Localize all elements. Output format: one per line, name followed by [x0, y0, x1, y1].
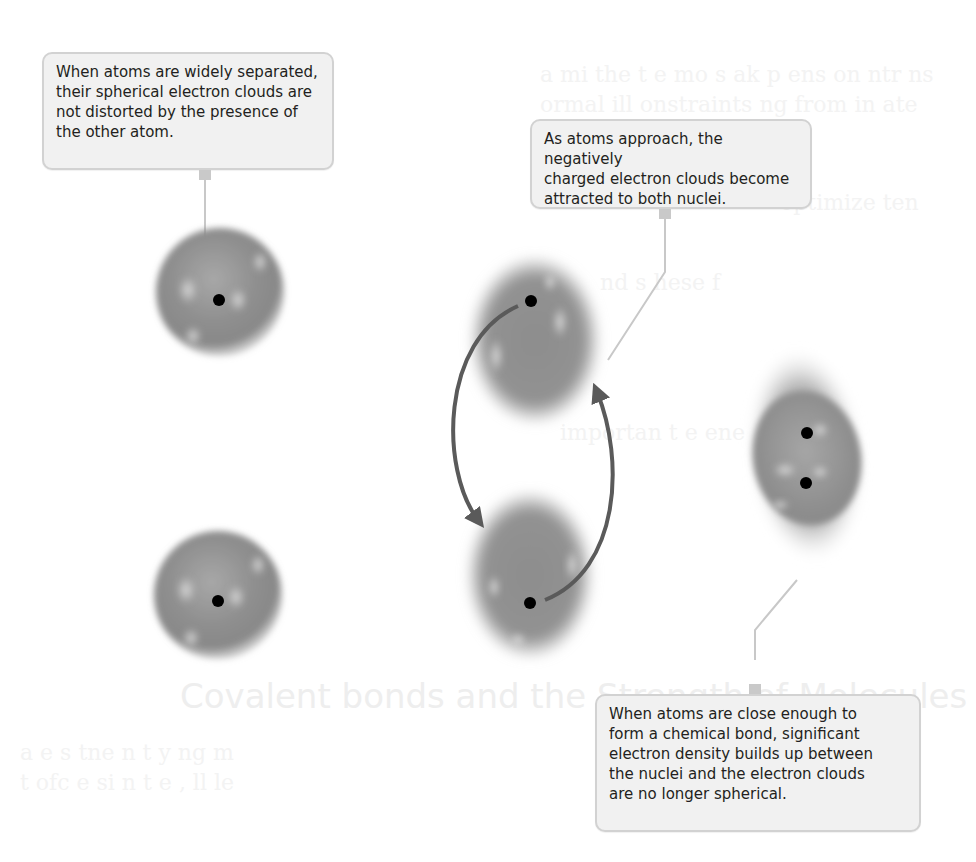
- callout-approaching: As atoms approach, the negatively charge…: [530, 119, 812, 209]
- nucleus: [212, 595, 224, 607]
- callout-line: When atoms are widely separated,: [56, 62, 320, 82]
- callout-line: As atoms approach, the negatively: [544, 129, 798, 169]
- nucleus: [801, 427, 813, 439]
- nucleus: [800, 477, 812, 489]
- nucleus: [213, 294, 225, 306]
- callout-line: form a chemical bond, significant: [609, 724, 907, 744]
- atom-approaching-top: [471, 258, 599, 422]
- callout-line: When atoms are close enough to: [609, 704, 907, 724]
- callout-line: the other atom.: [56, 122, 320, 142]
- callout-line: are no longer spherical.: [609, 784, 907, 804]
- callout-bonded: When atoms are close enough to form a ch…: [595, 694, 921, 832]
- leader-line-bonded: [755, 580, 797, 660]
- nucleus: [524, 597, 536, 609]
- callout-line: not distorted by the presence of: [56, 102, 320, 122]
- callout-connector-tab: [199, 170, 211, 180]
- callout-line: attracted to both nuclei.: [544, 189, 798, 209]
- callout-separated: When atoms are widely separated, their s…: [42, 52, 334, 170]
- molecule-bonded: [739, 345, 872, 566]
- atom-approaching-bottom: [468, 493, 592, 657]
- callout-connector-tab: [659, 209, 671, 219]
- callout-line: charged electron clouds become: [544, 169, 798, 189]
- callout-line: the nuclei and the electron clouds: [609, 764, 907, 784]
- callout-line: their spherical electron clouds are: [56, 82, 320, 102]
- callout-connector-tab: [749, 684, 761, 694]
- atom-separated-top: [156, 228, 284, 356]
- leader-line-approaching: [608, 215, 665, 360]
- nucleus: [525, 295, 537, 307]
- figure-stage: a mi the t e mo s ak p ens on ntr ns orm…: [0, 0, 976, 862]
- atom-separated-bottom: [154, 531, 282, 659]
- callout-line: electron density builds up between: [609, 744, 907, 764]
